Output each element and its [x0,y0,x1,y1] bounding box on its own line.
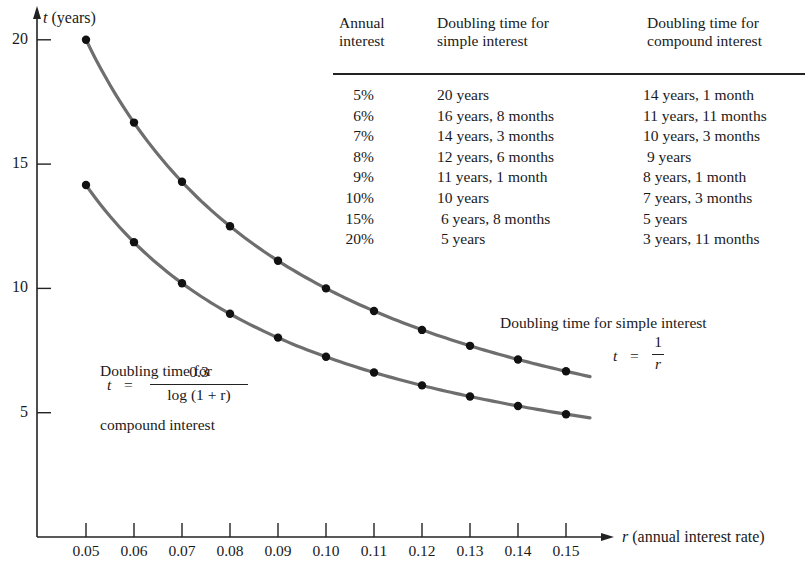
table-cell-simple: 16 years, 8 months [437,107,554,125]
table-header-rule [333,73,805,75]
table-cell-simple: 5 years [437,230,485,248]
x-tick-label: 0.05 [64,542,108,560]
x-tick-label: 0.15 [544,542,588,560]
simple-interest-point [418,326,426,334]
x-tick-label: 0.08 [208,542,252,560]
table-header-annual-interest: Annual interest [339,14,385,50]
simple-interest-point [370,307,378,315]
compound-interest-point [370,368,378,376]
table-cell-compound: 5 years [643,210,687,228]
x-tick-label: 0.13 [448,542,492,560]
table-cell-simple: 12 years, 6 months [437,148,554,166]
compound-interest-point [562,410,570,418]
table-cell-compound: 11 years, 11 months [643,107,767,125]
axes [33,6,614,541]
simple-interest-point [82,36,90,44]
y-tick-label: 15 [2,154,28,172]
table-cell-compound: 9 years [643,148,691,166]
table-cell-simple: 6 years, 8 months [437,210,550,228]
x-axis-arrow-icon [601,533,614,541]
simple-formula-equals: = [630,347,639,365]
simple-interest-point [178,178,186,186]
simple-formula-numerator: 1 [651,333,665,351]
table-cell-rate: 5% [340,86,374,104]
x-tick-label: 0.06 [112,542,156,560]
simple-interest-point [274,257,282,265]
y-tick-label: 5 [2,403,28,421]
x-tick-label: 0.11 [352,542,396,560]
header-line: Doubling time for [647,14,762,32]
table-cell-rate: 9% [340,168,374,186]
simple-interest-point [322,284,330,292]
compound-interest-point [466,392,474,400]
x-axis-title: r (annual interest rate) [622,528,765,546]
compound-formula-fraction-bar [150,384,248,385]
compound-caption-line-2: compound interest [100,416,215,434]
table-cell-compound: 14 years, 1 month [643,86,754,104]
header-line: interest [339,32,385,50]
y-axis-unit: (years) [47,9,95,26]
simple-interest-point [514,355,522,363]
simple-interest-point [226,222,234,230]
simple-interest-point [562,367,570,375]
compound-formula-denominator: log (1 + r) [150,386,248,404]
y-axis-title: t (years) [43,9,96,27]
table-header-compound: Doubling time for compound interest [647,14,762,50]
table-cell-compound: 8 years, 1 month [643,168,746,186]
simple-formula-denominator: r [651,355,665,373]
header-line: Doubling time for [437,14,549,32]
y-axis-arrow-icon [33,6,41,19]
compound-interest-point [322,353,330,361]
simple-caption: Doubling time for simple interest [500,314,707,332]
table-cell-rate: 10% [340,189,374,207]
table-cell-rate: 6% [340,107,374,125]
x-tick-label: 0.09 [256,542,300,560]
table-cell-simple: 20 years [437,86,489,104]
x-tick-label: 0.14 [496,542,540,560]
compound-formula-equals: = [124,376,133,394]
table-cell-simple: 10 years [437,189,489,207]
compound-interest-point [226,310,234,318]
header-line: simple interest [437,32,549,50]
x-tick-label: 0.07 [160,542,204,560]
table-cell-compound: 7 years, 3 months [643,189,752,207]
table-cell-rate: 8% [340,148,374,166]
header-line: compound interest [647,32,762,50]
table-cell-compound: 10 years, 3 months [643,127,760,145]
table-cell-rate: 15% [340,210,374,228]
table-cell-rate: 7% [340,127,374,145]
compound-interest-point [418,381,426,389]
compound-formula-numerator: 0.3 [150,363,248,381]
x-tick-label: 0.10 [304,542,348,560]
y-tick-label: 10 [2,278,28,296]
x-tick-label: 0.12 [400,542,444,560]
y-tick-label: 20 [2,30,28,48]
x-axis-unit: (annual interest rate) [628,528,764,545]
table-cell-compound: 3 years, 11 months [643,230,760,248]
header-line: Annual [339,14,385,32]
chart-canvas [0,0,808,563]
simple-interest-point [130,118,138,126]
table-cell-rate: 20% [340,230,374,248]
table-cell-simple: 14 years, 3 months [437,127,554,145]
compound-interest-point [274,333,282,341]
compound-interest-point [514,402,522,410]
simple-interest-point [466,342,474,350]
table-cell-simple: 11 years, 1 month [437,168,548,186]
compound-interest-point [178,279,186,287]
compound-interest-point [130,238,138,246]
table-header-simple: Doubling time for simple interest [437,14,549,50]
simple-formula-lhs: t [613,347,617,365]
compound-interest-point [82,181,90,189]
compound-formula-lhs: t [107,376,111,394]
